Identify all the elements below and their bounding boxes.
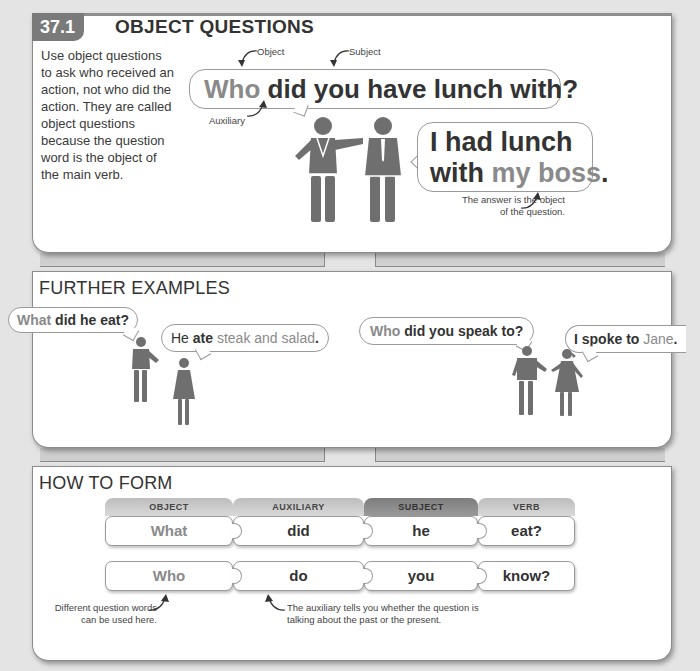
section-title: FURTHER EXAMPLES	[39, 278, 230, 299]
woman-figure-icon	[549, 348, 589, 418]
man-figure-icon	[511, 345, 551, 417]
cell-text: eat?	[511, 522, 542, 539]
column-header-subject: SUBJECT	[364, 498, 478, 516]
answer-period: .	[315, 330, 319, 346]
man-figure-icon	[129, 336, 163, 404]
answer-object: Jane	[643, 331, 673, 347]
auxiliary-label: Auxiliary	[209, 115, 245, 127]
panel-connector-left	[40, 448, 325, 462]
section-title: OBJECT QUESTIONS	[115, 16, 314, 38]
column-header-verb: VERB	[478, 498, 575, 516]
example2-question-bubble: Who did you speak to?	[359, 317, 534, 345]
column-header-auxiliary: AUXILIARY	[233, 498, 364, 516]
cell-subject: he	[364, 516, 478, 546]
question-word: Who	[370, 323, 400, 339]
answer-object: my boss	[492, 158, 602, 188]
object-label: Object	[257, 46, 284, 58]
bubble-tail	[293, 101, 308, 116]
businessman-figure-icon	[289, 116, 369, 224]
further-examples-panel: FURTHER EXAMPLES What did he eat? He ate…	[32, 271, 672, 448]
cell-object: Who	[105, 561, 233, 591]
question-rest: did you have lunch with?	[268, 74, 579, 104]
section-title: HOW TO FORM	[39, 473, 173, 494]
cell-object: What	[105, 516, 233, 546]
intro-text: Use object questions to ask who received…	[41, 47, 176, 183]
right-note-arrow-icon	[259, 592, 287, 614]
cell-verb: know?	[478, 561, 575, 591]
subject-label: Subject	[349, 46, 381, 58]
question-rest: did he eat?	[55, 312, 129, 328]
panel-connector-left	[40, 253, 325, 267]
answer-with: with	[430, 158, 484, 188]
cell-subject: you	[364, 561, 478, 591]
object-arrow-icon	[231, 47, 261, 69]
answer-text: I spoke to	[574, 331, 639, 347]
answer-bubble: I had lunch with my boss.	[417, 122, 593, 192]
object-questions-panel: 37.1 OBJECT QUESTIONS Use object questio…	[32, 13, 672, 253]
answer-note: The answer is the object of the question…	[455, 194, 565, 218]
puzzle-knob	[477, 568, 487, 584]
auxiliary-arrow-icon	[245, 98, 273, 120]
column-header-object: OBJECT	[105, 498, 233, 516]
question-word: What	[17, 312, 51, 328]
puzzle-knob	[477, 523, 487, 539]
woman-figure-icon	[169, 357, 199, 427]
question-rest: did you speak to?	[404, 323, 523, 339]
left-note: Different question words can be used her…	[47, 602, 157, 626]
puzzle-knob	[232, 523, 242, 539]
panel-connector-right	[375, 253, 665, 267]
example1-question-bubble: What did he eat?	[8, 307, 138, 333]
cell-verb: eat?	[478, 516, 575, 546]
cell-text: he	[412, 522, 430, 539]
cell-text: know?	[503, 567, 551, 584]
right-note: The auxiliary tells you whether the ques…	[287, 602, 487, 626]
cell-text: do	[289, 567, 307, 584]
cell-text: did	[287, 522, 310, 539]
puzzle-knob	[363, 523, 373, 539]
how-to-form-panel: HOW TO FORM OBJECT AUXILIARY SUBJECT VER…	[32, 466, 672, 661]
example1-answer-bubble: He ate steak and salad.	[161, 324, 329, 352]
puzzle-knob	[232, 568, 242, 584]
puzzle-knob	[363, 568, 373, 584]
panel-connector-right	[375, 448, 665, 462]
answer-object: steak and salad	[217, 330, 315, 346]
answer-subject: He	[171, 330, 189, 346]
subject-arrow-icon	[323, 47, 353, 69]
cell-auxiliary: do	[233, 561, 364, 591]
cell-text: you	[408, 567, 435, 584]
answer-line1: I had lunch	[430, 127, 592, 158]
answer-period: .	[674, 331, 678, 347]
cell-auxiliary: did	[233, 516, 364, 546]
section-number-badge: 37.1	[32, 13, 84, 41]
boss-figure-icon	[361, 116, 411, 224]
answer-period: .	[601, 158, 609, 188]
